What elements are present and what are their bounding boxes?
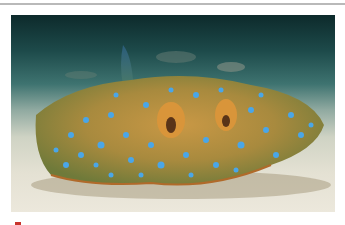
top-divider — [0, 3, 345, 5]
caption-marker — [15, 222, 21, 225]
stingray-illustration — [11, 15, 335, 212]
stingray-photo — [11, 15, 335, 212]
